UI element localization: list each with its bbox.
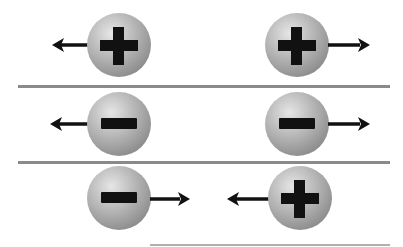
arrow-right-icon (150, 191, 190, 207)
row-divider-2 (18, 161, 390, 164)
negative-charge-sphere (265, 92, 329, 156)
negative-charge-sphere (87, 166, 151, 230)
arrow-right-icon (328, 37, 370, 53)
arrow-left-icon (52, 37, 90, 53)
plus-icon-vertical (294, 180, 305, 218)
plus-icon-vertical (291, 27, 302, 65)
negative-charge-sphere (87, 92, 151, 156)
minus-icon (279, 118, 315, 129)
minus-icon (101, 192, 137, 203)
row-divider-1 (18, 85, 390, 88)
arrow-right-icon (328, 116, 370, 132)
plus-icon-vertical (113, 27, 124, 65)
arrow-left-icon (50, 116, 90, 132)
minus-icon (101, 118, 137, 129)
positive-charge-sphere (265, 13, 329, 77)
bottom-divider (150, 244, 390, 246)
arrow-left-icon (227, 191, 269, 207)
positive-charge-sphere (268, 166, 332, 230)
positive-charge-sphere (87, 13, 151, 77)
